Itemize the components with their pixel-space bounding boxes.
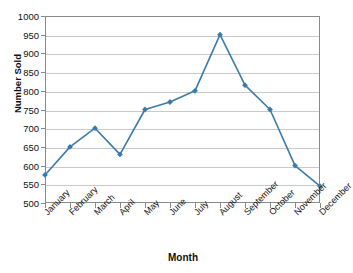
- y-tick-label: 900: [23, 48, 39, 59]
- y-tick-label: 500: [23, 198, 39, 209]
- y-tick-label: 800: [23, 85, 39, 96]
- y-tick-label: 550: [23, 179, 39, 190]
- series-polyline: [45, 35, 320, 186]
- series-markers: [42, 32, 323, 189]
- data-point-july: [192, 88, 198, 94]
- y-axis-tick-labels: 1000950900850800750700650600550500: [0, 16, 42, 203]
- y-tick-label: 750: [23, 104, 39, 115]
- chart-title: [0, 0, 339, 3]
- y-tick-label: 850: [23, 67, 39, 78]
- y-tick-label: 650: [23, 141, 39, 152]
- x-axis-title: Month: [45, 252, 321, 263]
- data-point-june: [167, 99, 173, 105]
- data-point-august: [217, 32, 223, 38]
- y-tick-label: 600: [23, 160, 39, 171]
- y-tick-label: 1000: [18, 11, 39, 22]
- y-tick-label: 950: [23, 29, 39, 40]
- data-series-line: [45, 16, 320, 203]
- y-tick-label: 700: [23, 123, 39, 134]
